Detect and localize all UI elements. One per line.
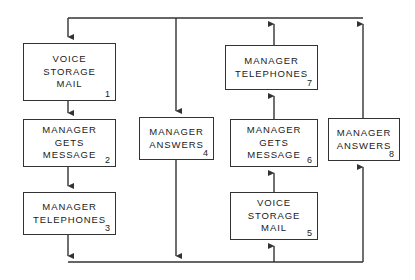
node-2-line-1: MANAGER xyxy=(42,124,96,137)
node-1-number: 1 xyxy=(105,89,110,99)
node-8-line-1: MANAGER xyxy=(337,127,391,140)
node-4-line-2: ANSWERS xyxy=(149,139,203,152)
node-5-number: 5 xyxy=(307,228,312,238)
flow-node-manager-telephones-3: MANAGER TELEPHONES 3 xyxy=(23,192,116,235)
flow-node-voice-storage-mail-5: VOICE STORAGE MAIL 5 xyxy=(230,192,318,240)
node-7-number: 7 xyxy=(307,78,312,88)
node-3-number: 3 xyxy=(105,223,110,233)
node-2-line-2: GETS xyxy=(55,137,84,150)
node-2-number: 2 xyxy=(105,155,110,165)
node-1-line-1: VOICE xyxy=(52,53,86,66)
node-3-line-2: TELEPHONES xyxy=(33,214,106,227)
flow-node-manager-telephones-7: MANAGER TELEPHONES 7 xyxy=(225,45,318,90)
node-6-line-3: MESSAGE xyxy=(247,149,300,162)
node-6-line-1: MANAGER xyxy=(247,124,301,137)
node-5-line-3: MAIL xyxy=(261,222,287,235)
node-4-number: 4 xyxy=(203,148,208,158)
node-6-line-2: GETS xyxy=(259,137,288,150)
flowchart-diagram: VOICE STORAGE MAIL 1 MANAGER GETS MESSAG… xyxy=(0,0,415,280)
flow-node-voice-storage-mail-1: VOICE STORAGE MAIL 1 xyxy=(23,43,116,101)
node-3-line-1: MANAGER xyxy=(42,201,96,214)
node-6-number: 6 xyxy=(307,155,312,165)
node-1-line-2: STORAGE xyxy=(43,66,96,79)
node-4-line-1: MANAGER xyxy=(149,126,203,139)
node-7-line-1: MANAGER xyxy=(244,55,298,68)
node-8-number: 8 xyxy=(389,149,394,159)
node-5-line-1: VOICE xyxy=(257,197,291,210)
flow-node-manager-answers-8: MANAGER ANSWERS 8 xyxy=(328,118,400,161)
node-2-line-3: MESSAGE xyxy=(43,149,96,162)
flow-node-manager-gets-message-6: MANAGER GETS MESSAGE 6 xyxy=(230,119,318,167)
node-5-line-2: STORAGE xyxy=(248,210,301,223)
node-7-line-2: TELEPHONES xyxy=(235,68,308,81)
node-8-line-2: ANSWERS xyxy=(337,140,391,153)
node-1-line-3: MAIL xyxy=(57,78,83,91)
flow-node-manager-gets-message-2: MANAGER GETS MESSAGE 2 xyxy=(23,119,116,167)
flow-node-manager-answers-4: MANAGER ANSWERS 4 xyxy=(139,117,214,160)
